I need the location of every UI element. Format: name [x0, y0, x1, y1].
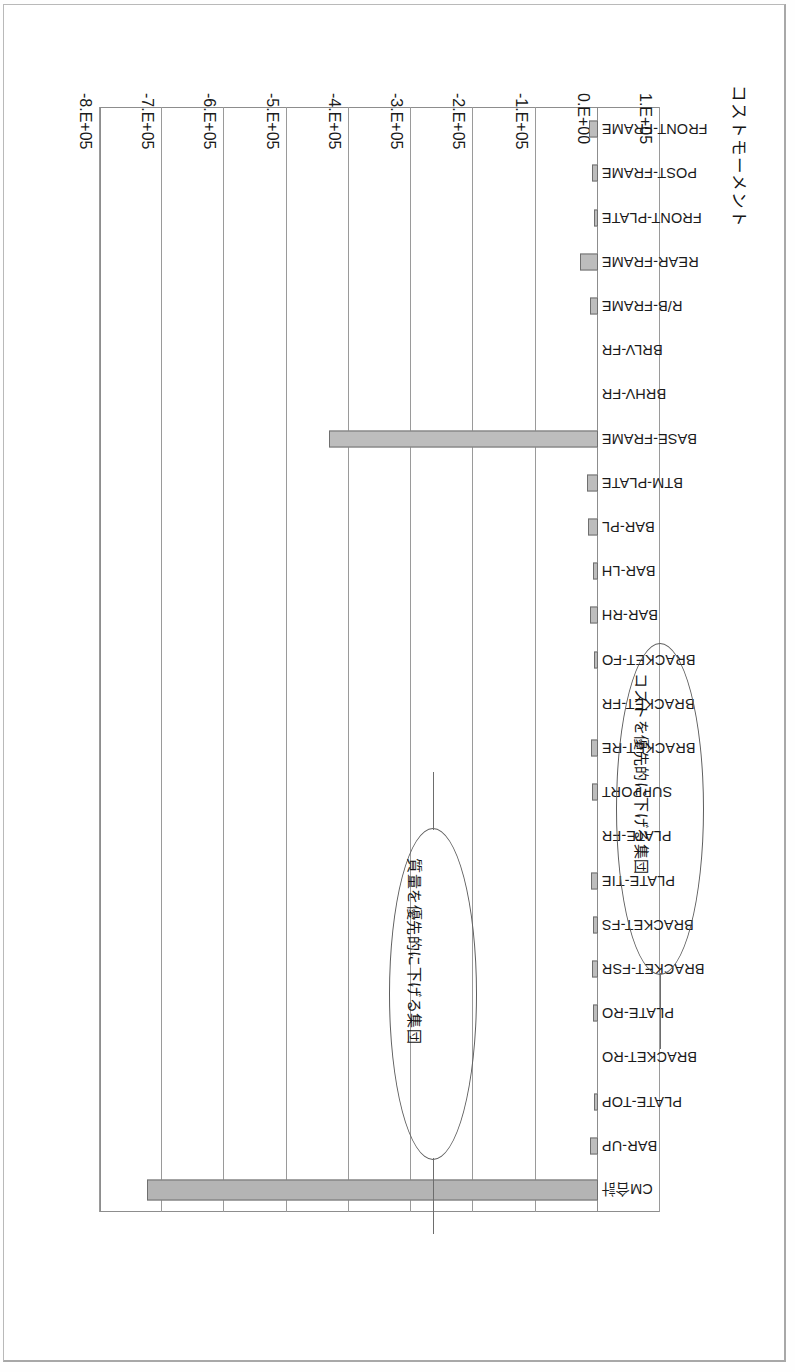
- bar-row: FRONT-FRAME: [0, 107, 795, 151]
- bar-row: CM合計: [0, 1168, 795, 1212]
- bar-row: BTM-PLATE: [0, 461, 795, 505]
- bar-cm-: [147, 1179, 598, 1200]
- bar-row: BRHV-FR: [0, 372, 795, 416]
- bar-plate-ro: [593, 1005, 598, 1022]
- category-label-btm-plate: BTM-PLATE: [602, 475, 722, 491]
- bar-bar-lh: [593, 563, 598, 580]
- bar-row: BAR-PL: [0, 505, 795, 549]
- bar-bar-pl: [588, 518, 597, 535]
- bar-plate-top: [594, 1093, 598, 1110]
- bar-support: [592, 784, 598, 801]
- bar-base-frame: [329, 430, 598, 447]
- annotation-leader-bottom-mass-group: [433, 772, 434, 830]
- bar-row: POST-FRAME: [0, 151, 795, 195]
- annotation-leader-top-cost-group: [660, 973, 661, 1049]
- category-label-brlv-fr: BRLV-FR: [602, 342, 722, 358]
- bar-r-b-frame: [590, 297, 598, 314]
- bar-front-plate: [594, 209, 598, 226]
- bar-plate-tie: [591, 872, 598, 889]
- bar-row: REAR-FRAME: [0, 240, 795, 284]
- category-label-rear-frame: REAR-FRAME: [602, 254, 722, 270]
- category-label-plate-ro: PLATE-RO: [602, 1005, 722, 1021]
- bar-front-frame: [589, 121, 598, 138]
- category-label-r-b-frame: R/B-FRAME: [602, 298, 722, 314]
- category-label-brhv-fr: BRHV-FR: [602, 386, 722, 402]
- category-label-front-frame: FRONT-FRAME: [602, 121, 722, 137]
- bar-bracket-re: [591, 739, 598, 756]
- bar-row: BASE-FRAME: [0, 416, 795, 460]
- category-label-bar-rh: BAR-RH: [602, 607, 722, 623]
- bar-row: BAR-LH: [0, 549, 795, 593]
- annotation-leader-top-mass-group: [433, 1158, 434, 1234]
- bar-row: FRONT-PLATE: [0, 195, 795, 239]
- bar-row: BAR-UP: [0, 1124, 795, 1168]
- category-label-bar-pl: BAR-PL: [602, 519, 722, 535]
- category-label-base-frame: BASE-FRAME: [602, 431, 722, 447]
- annotation-text-cost-group: コストを優先的に下げる集団: [632, 673, 653, 875]
- annotation-text-mass-group: 質量を優先的に下げる集団: [405, 858, 426, 1044]
- bar-row: BRLV-FR: [0, 328, 795, 372]
- category-label-bar-up: BAR-UP: [602, 1138, 722, 1154]
- category-label-front-plate: FRONT-PLATE: [602, 210, 722, 226]
- bar-post-frame: [592, 165, 598, 182]
- category-label-bar-lh: BAR-LH: [602, 563, 722, 579]
- rotated-chart-container: コストモーメント 1.E+050.E+00-1.E+05-2.E+05-3.E+…: [0, 0, 795, 1372]
- bar-bracket-fo: [594, 651, 598, 668]
- bar-bracket-fs: [593, 916, 597, 933]
- category-label-bracket-ro: BRACKET-RO: [602, 1049, 722, 1065]
- category-label-cm-: CM合計: [602, 1179, 722, 1200]
- bar-bracket-fsr: [592, 960, 598, 977]
- category-label-post-frame: POST-FRAME: [602, 165, 722, 181]
- annotation-ellipse-cost-group: [616, 643, 704, 975]
- bar-bar-rh: [590, 607, 598, 624]
- bar-btm-plate: [587, 474, 598, 491]
- category-label-plate-top: PLATE-TOP: [602, 1094, 722, 1110]
- bar-row: R/B-FRAME: [0, 284, 795, 328]
- bar-rear-frame: [580, 253, 597, 270]
- cost-moment-bar-chart: コストモーメント 1.E+050.E+00-1.E+05-2.E+05-3.E+…: [0, 0, 795, 1372]
- scanned-page: コストモーメント 1.E+050.E+00-1.E+05-2.E+05-3.E+…: [0, 0, 795, 1372]
- bar-row: BAR-RH: [0, 593, 795, 637]
- annotation-ellipse-mass-group: [389, 828, 477, 1160]
- bar-bar-up: [590, 1137, 597, 1154]
